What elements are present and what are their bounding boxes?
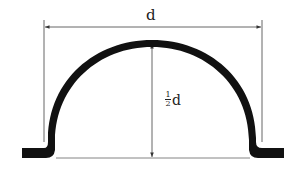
height-label: 1 2 d [165, 91, 181, 108]
arch-diagram [0, 0, 303, 172]
arch-profile [22, 40, 284, 158]
fraction-half: 1 2 [165, 91, 171, 108]
fraction-denominator: 2 [165, 100, 170, 108]
height-variable: d [172, 92, 181, 108]
fraction-numerator: 1 [165, 91, 170, 99]
width-label: d [146, 6, 156, 24]
